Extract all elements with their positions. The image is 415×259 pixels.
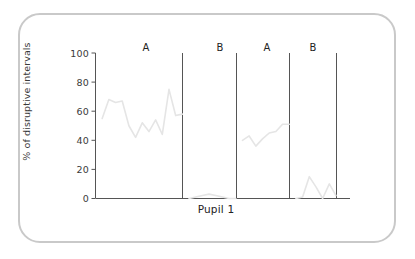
- y-tick-label-40: 40: [63, 135, 89, 146]
- data-series-lines: [102, 89, 336, 198]
- y-tick-label-80: 80: [63, 77, 89, 88]
- y-tick-label-20: 20: [63, 164, 89, 175]
- y-axis-title: % of disruptive intervals: [21, 32, 32, 172]
- chart-plot-svg: [0, 0, 415, 259]
- x-axis-title: Pupil 1: [95, 203, 337, 215]
- phase-label-a2: A: [252, 42, 282, 53]
- y-tick-label-100: 100: [63, 48, 89, 59]
- y-axis-ticks: [92, 53, 96, 199]
- phase-divider-lines: [183, 53, 337, 199]
- y-tick-label-0: 0: [63, 193, 89, 204]
- data-line-phase-3-baseline-2: [242, 124, 289, 146]
- data-line-phase-2-intervention-1: [189, 194, 236, 198]
- phase-label-b2: B: [298, 42, 328, 53]
- phase-label-a1: A: [131, 42, 161, 53]
- phase-label-b1: B: [205, 42, 235, 53]
- data-line-phase-1-baseline-1: [102, 89, 182, 137]
- chart-ABAB-reversal: 100 80 60 40 20 0 % of disruptive interv…: [0, 0, 415, 259]
- data-line-phase-4-intervention-2: [296, 177, 336, 199]
- y-tick-label-60: 60: [63, 106, 89, 117]
